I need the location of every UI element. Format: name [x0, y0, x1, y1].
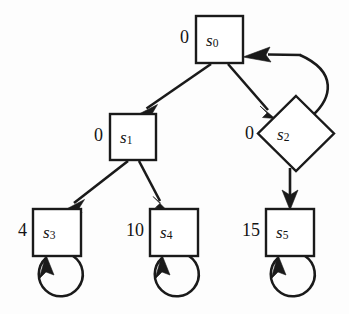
state-diagram-canvas: s0 0 s1 0 s2 0 s3 4	[0, 0, 349, 314]
state-diagram-svg: s0 0 s1 0 s2 0 s3 4	[0, 0, 349, 314]
node-s2-value: 0	[245, 123, 254, 143]
node-s3[interactable]: s3 4	[18, 209, 81, 256]
node-s1-label-subscript: 1	[127, 134, 133, 146]
edge-s1-to-s4	[139, 161, 167, 210]
node-s1[interactable]: s1 0	[94, 114, 156, 160]
node-s2-shape[interactable]	[258, 96, 334, 171]
node-s4-value: 10	[126, 220, 144, 240]
node-s5-shape[interactable]	[266, 209, 314, 256]
node-s0-label-subscript: 0	[213, 37, 219, 49]
node-s5-label-subscript: 5	[283, 229, 289, 241]
node-s3-label-subscript: 3	[50, 229, 56, 241]
edge-s1-to-s4-line	[139, 161, 160, 201]
node-s4-shape[interactable]	[150, 209, 198, 256]
edge-s0-to-s2	[228, 64, 275, 119]
node-s0[interactable]: s0 0	[180, 16, 243, 63]
node-s0-value: 0	[180, 27, 189, 47]
edge-s4-self-loop	[155, 255, 199, 296]
edge-s0-to-s1-line	[147, 64, 212, 109]
node-s3-shape[interactable]	[33, 209, 81, 256]
edge-s5-self-loop	[271, 255, 315, 296]
node-s4[interactable]: s4 10	[126, 209, 198, 256]
edge-s2-to-s5	[282, 168, 298, 210]
node-s3-value: 4	[18, 220, 27, 240]
edge-s0-to-s2-line	[228, 64, 268, 110]
edge-s1-to-s3-line	[74, 161, 128, 203]
node-s1-shape[interactable]	[110, 114, 156, 160]
edge-s2-to-s0-arrowhead	[243, 47, 271, 62]
edge-s0-to-s1	[139, 64, 211, 119]
node-s5[interactable]: s5 15	[242, 209, 314, 256]
node-s0-shape[interactable]	[196, 16, 243, 63]
node-s1-value: 0	[94, 125, 103, 145]
edge-s2-to-s0-tail	[268, 55, 301, 56]
edge-s1-to-s3	[67, 161, 129, 213]
node-s2-label-subscript: 2	[284, 131, 290, 143]
edge-s3-self-loop	[39, 255, 83, 296]
node-s5-value: 15	[242, 220, 260, 240]
node-s4-label-subscript: 4	[167, 229, 173, 241]
